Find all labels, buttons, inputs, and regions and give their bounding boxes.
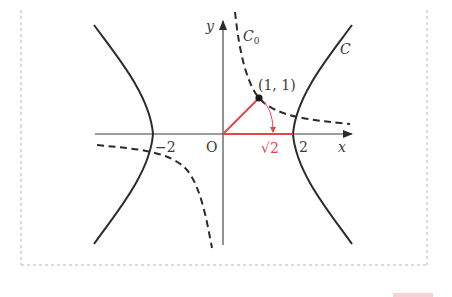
tick-label-sqrt-two: √2 (261, 140, 279, 156)
y-axis-label: y (205, 18, 215, 34)
tick-label-neg-two: −2 (155, 139, 176, 155)
dashed-frame (21, 10, 427, 265)
segment-origin-to-point (223, 98, 259, 134)
curve-c0-label: C0 (243, 28, 260, 46)
tick-label-two: 2 (299, 139, 308, 155)
x-axis-label: x (338, 139, 346, 155)
point-1-1 (255, 94, 262, 101)
curve-c-label: C (340, 41, 351, 57)
corner-artifact (393, 293, 433, 297)
hyperbola-diagram: (1, 1) y x O −2 2 √2 C C0 (0, 0, 452, 297)
rotation-arc (264, 102, 273, 132)
curve-c0-lower-branch (97, 145, 212, 248)
point-label: (1, 1) (258, 77, 296, 93)
origin-label: O (206, 139, 217, 155)
